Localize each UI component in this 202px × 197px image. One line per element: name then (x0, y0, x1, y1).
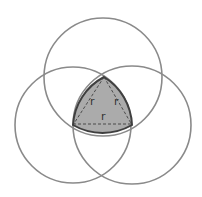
diagram-canvas: r r r (0, 0, 202, 197)
label-left-side: r (90, 95, 95, 108)
reuleaux-triangle (73, 77, 132, 133)
reuleaux-diagram: r r r (0, 0, 202, 197)
label-base: r (101, 110, 106, 123)
label-right-side: r (114, 95, 119, 108)
